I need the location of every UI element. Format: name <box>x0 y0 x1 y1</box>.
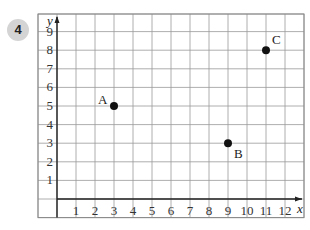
point-b <box>224 139 232 147</box>
x-tick-label: 11 <box>260 203 273 218</box>
y-axis-arrow-icon <box>55 16 60 23</box>
point-label-b: B <box>234 146 243 161</box>
y-tick-label: 1 <box>47 172 54 187</box>
x-tick-label: 9 <box>225 203 232 218</box>
point-a <box>110 102 118 110</box>
x-tick-label: 1 <box>73 203 80 218</box>
x-tick-label: 4 <box>130 203 137 218</box>
coordinate-grid-chart: yx123456789101112123456789ABC <box>0 0 310 230</box>
y-tick-label: 7 <box>47 61 54 76</box>
x-tick-label: 2 <box>92 203 99 218</box>
x-tick-label: 10 <box>241 203 254 218</box>
x-tick-label: 5 <box>149 203 156 218</box>
x-axis-label: x <box>296 201 303 216</box>
y-tick-label: 2 <box>47 154 54 169</box>
y-tick-label: 9 <box>47 24 54 39</box>
y-tick-label: 3 <box>47 135 54 150</box>
x-tick-label: 3 <box>111 203 118 218</box>
x-tick-label: 8 <box>206 203 213 218</box>
x-tick-label: 12 <box>279 203 292 218</box>
point-c <box>262 46 270 54</box>
point-label-c: C <box>272 32 281 47</box>
x-tick-label: 7 <box>187 203 194 218</box>
x-tick-label: 6 <box>168 203 175 218</box>
y-tick-label: 5 <box>47 98 54 113</box>
y-tick-label: 6 <box>47 79 54 94</box>
point-label-a: A <box>98 92 108 107</box>
y-tick-label: 8 <box>47 42 54 57</box>
y-tick-label: 4 <box>47 117 54 132</box>
